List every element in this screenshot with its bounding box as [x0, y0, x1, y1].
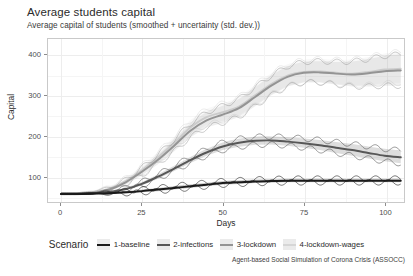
chart-page: Average students capital Average capital…: [0, 0, 413, 276]
x-tick-mark-50: [223, 203, 224, 206]
legend-label: 1-baseline: [114, 240, 150, 249]
x-tick-label-0: 0: [58, 208, 62, 217]
x-axis-label: Days: [216, 218, 235, 228]
x-tick-mark-100: [385, 203, 386, 206]
series-2-infections: [61, 134, 401, 194]
x-tick-mark-75: [304, 203, 305, 206]
legend-item-4-lockdown-wages[interactable]: 4-lockdown-wages: [283, 239, 364, 250]
series-3-lockdown: [61, 52, 401, 195]
legend: Scenario 1-baseline2-infections3-lockdow…: [0, 239, 413, 250]
legend-label: 3-lockdown: [237, 240, 276, 249]
x-tick-mark-0: [60, 203, 61, 206]
page-subtitle: Average capital of students (smoothed + …: [27, 21, 260, 30]
legend-swatch-icon-3-lockdown: [220, 239, 233, 250]
x-tick-label-50: 50: [219, 208, 227, 217]
y-tick-label-400: 400: [28, 50, 41, 59]
legend-item-1-baseline[interactable]: 1-baseline: [97, 239, 149, 250]
legend-label: 2-infections: [173, 240, 213, 249]
y-tick-label-200: 200: [28, 131, 41, 140]
chart-caption: Agent-based Social Simulation of Corona …: [232, 256, 405, 263]
y-tick-label-100: 100: [28, 172, 41, 181]
x-tick-label-100: 100: [379, 208, 392, 217]
mean-line-4-lockdown-wages: [61, 69, 401, 194]
plot-panel: [47, 38, 405, 203]
legend-swatch-icon-1-baseline: [97, 239, 110, 250]
band-edge-low-4-lockdown-wages: [61, 79, 401, 195]
legend-item-2-infections[interactable]: 2-infections: [157, 239, 213, 250]
legend-swatch-icon-4-lockdown-wages: [283, 239, 296, 250]
legend-label: 4-lockdown-wages: [300, 240, 365, 249]
x-tick-label-75: 75: [300, 208, 308, 217]
mean-line-3-lockdown: [61, 70, 401, 194]
legend-title: Scenario: [49, 239, 88, 250]
band-edge-low-3-lockdown: [61, 80, 401, 195]
legend-swatch-icon-2-infections: [157, 239, 170, 250]
plot-area: [48, 39, 404, 202]
page-title: Average students capital: [27, 6, 155, 18]
legend-item-3-lockdown[interactable]: 3-lockdown: [220, 239, 276, 250]
y-axis-label: Capital: [6, 94, 16, 120]
y-tick-label-300: 300: [28, 91, 41, 100]
x-tick-label-25: 25: [137, 208, 145, 217]
x-tick-mark-25: [141, 203, 142, 206]
